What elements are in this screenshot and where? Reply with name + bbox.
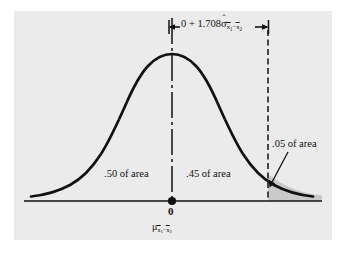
critical-value-expression: 0 + 1.708ˆσx1−x2 [181,19,242,32]
figure-root: 0 + 1.708ˆσx1−x2 .50 of area .45 of area… [0,0,348,256]
overbar-icon [166,225,170,226]
overbar-icon [235,22,240,23]
overbar-icon [226,22,231,23]
x-bar-2: x [236,24,239,31]
normal-distribution-chart [0,0,348,256]
x-symbol-2: x [166,226,169,233]
x-symbol-1: x [227,23,230,30]
overbar-icon [157,225,161,226]
subscript-two: 2 [239,26,242,32]
mu-subscript: x1−x2 [157,226,172,233]
left-area-label: .50 of area [104,169,149,180]
x-symbol-2: x [236,23,239,30]
center-zero-label: 0 [168,206,174,217]
mean-point-marker [168,197,176,205]
x-bar-1: x [227,24,230,31]
mean-parameter-label: μx1−x2 [152,222,172,235]
x-bar-2: x [166,227,169,233]
hat-accent-icon: ˆ [222,14,225,23]
tail-label-leader-line [271,152,288,184]
subscript-two: 2 [169,229,171,234]
x-bar-1: x [157,227,160,233]
right-area-label: .45 of area [186,169,231,180]
tail-area-label: .05 of area [272,139,317,150]
expr-subscript: x1−x2 [227,23,242,30]
x-symbol-1: x [157,226,160,233]
expr-prefix-text: 0 + 1.708 [181,18,221,29]
